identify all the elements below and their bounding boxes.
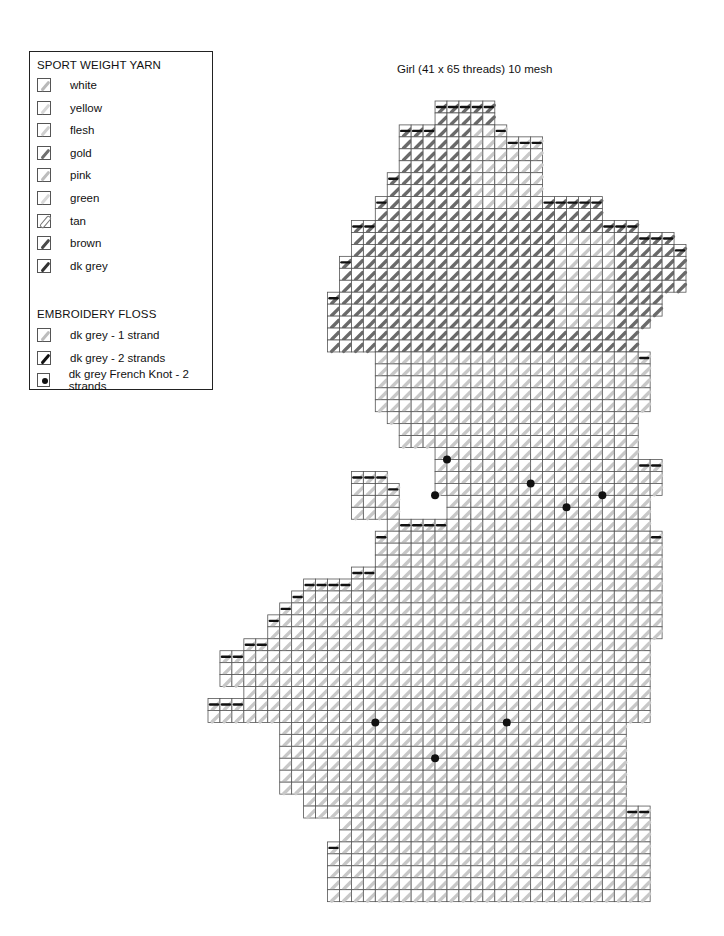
needlepoint-chart-grid — [0, 0, 724, 936]
